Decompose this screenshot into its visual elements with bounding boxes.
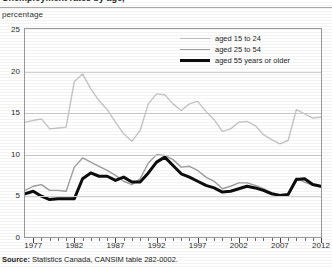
legend-label-youth: aged 15 to 24: [215, 34, 261, 43]
source-note: Source: Statistics Canada, CANSIM table …: [2, 255, 178, 264]
legend-line-icon-youth: [180, 38, 210, 39]
series-line-aged-25-to-54: [25, 155, 321, 195]
title-divider: [0, 7, 332, 8]
legend-label-core: aged 25 to 54: [215, 45, 261, 54]
legend-item-aged-55-or-older: aged 55 years or older: [180, 55, 290, 65]
legend-label-older: aged 55 years or older: [215, 56, 290, 65]
page-title-clipped: Unemployment rates by age,: [0, 0, 332, 7]
x-tick-label-1982: 1982: [65, 241, 83, 250]
x-tick-label-1992: 1992: [148, 241, 166, 250]
source-prefix: Source:: [2, 255, 30, 264]
y-tick-label-10: 10: [11, 149, 20, 158]
x-tick-label-1997: 1997: [189, 241, 207, 250]
series-line-aged-15-to-24: [25, 74, 321, 144]
legend-item-aged-25-to-54: aged 25 to 54: [180, 44, 290, 54]
gridline-y-20: [25, 72, 321, 73]
legend-item-aged-15-to-24: aged 15 to 24: [180, 33, 290, 43]
y-tick-label-25: 25: [11, 25, 20, 34]
x-tick-label-1987: 1987: [107, 241, 125, 250]
x-tick-label-2007: 2007: [271, 241, 289, 250]
x-axis-labels: 19771982198719921997200220072012: [0, 241, 332, 255]
x-tick-label-2002: 2002: [230, 241, 248, 250]
y-tick-label-5: 5: [16, 191, 20, 200]
gridline-y-10: [25, 155, 321, 156]
x-tick-label-1977: 1977: [24, 241, 42, 250]
gridline-y-15: [25, 113, 321, 114]
y-axis-labels: 0510152025: [0, 0, 24, 267]
legend-line-icon-core: [180, 49, 210, 50]
legend-line-icon-older: [180, 59, 210, 62]
gridline-y-5: [25, 196, 321, 197]
chart-legend: aged 15 to 24 aged 25 to 54 aged 55 year…: [176, 31, 294, 69]
source-text: Statistics Canada, CANSIM table 282-0002…: [30, 255, 178, 264]
y-tick-label-15: 15: [11, 108, 20, 117]
x-tick-label-2012: 2012: [312, 241, 330, 250]
y-tick-label-20: 20: [11, 66, 20, 75]
